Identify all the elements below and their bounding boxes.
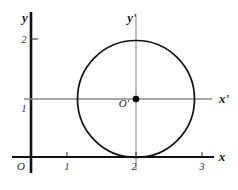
x-tick-label-1: 1 [65,161,70,172]
y-tick-label-2: 2 [22,34,27,45]
x-prime-axis-label: x' [218,91,230,106]
y-axis-label: y [20,10,28,25]
coordinate-diagram: y y' x x' O O' 1 2 3 1 2 [0,0,238,190]
y-tick-label-1: 1 [22,103,27,114]
x-tick-label-3: 3 [199,161,205,172]
translated-origin-label: O' [119,97,130,109]
figure-canvas: y y' x x' O O' 1 2 3 1 2 [0,0,238,190]
x-axis-label: x [218,149,226,164]
y-prime-axis-label: y' [125,10,137,25]
x-tick-label-2: 2 [132,161,137,172]
original-axes-group [12,12,214,173]
translated-axes-group [24,16,212,170]
origin-label: O [17,160,25,172]
translated-origin-point [133,96,140,103]
